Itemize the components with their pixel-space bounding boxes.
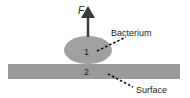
bacterium-label: Bacterium [111,28,152,38]
region-2-label: 2 [84,67,89,77]
surface-rect [8,64,180,79]
surface-label: Surface [136,85,167,95]
bacterium-adhesion-diagram: F Bacterium 1 2 Surface [0,0,190,98]
force-label: F [78,5,85,16]
region-1-label: 1 [84,47,89,57]
